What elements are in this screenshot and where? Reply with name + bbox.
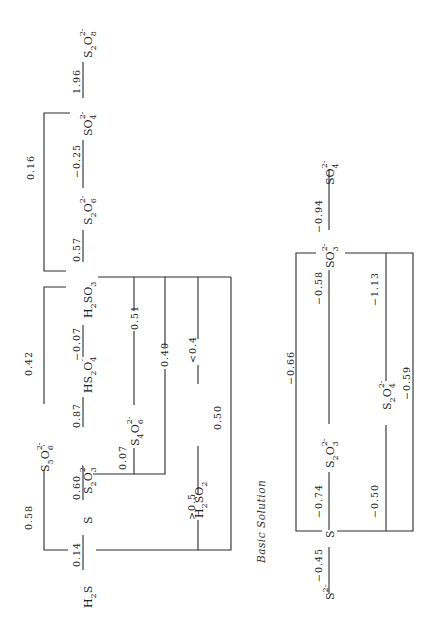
potential-h2so3-so4: 0.16 bbox=[25, 155, 36, 180]
potential-s2o3-so3-basic: −0.58 bbox=[313, 271, 324, 305]
bracket-h2s-h2so2 bbox=[96, 520, 198, 550]
potential-h2s-h2so3: 0.50 bbox=[212, 405, 223, 430]
latimer-diagram: H2S S S2O32- HS2O4- H2SO3 S2O62- SO42- S… bbox=[0, 0, 434, 639]
species-s: S bbox=[82, 516, 95, 524]
potential-so3-so4-basic: −0.94 bbox=[313, 199, 324, 233]
potential-so4-s2o8: 1.96 bbox=[71, 69, 82, 94]
potential-s-so3-via-basic: −0.59 bbox=[401, 366, 412, 400]
potential-s2-s-basic: −0.45 bbox=[313, 548, 324, 582]
bracket-s5o6-h2so3 bbox=[44, 287, 66, 404]
acid-lower-brackets bbox=[93, 277, 231, 550]
species-h2so3: H2SO3 bbox=[82, 282, 98, 318]
species-s2o6: S2O62- bbox=[78, 195, 98, 225]
potential-s-so3-basic: −0.66 bbox=[285, 351, 296, 385]
potential-h2s-s5o6: 0.58 bbox=[23, 505, 34, 530]
potential-s-s2o3: 0.60 bbox=[71, 475, 82, 500]
potential-s2o4-so3-basic: −1.13 bbox=[369, 272, 380, 306]
potential-h2so2-h2so3: <0.4 bbox=[187, 336, 198, 363]
potential-s4o6-h2so3: 0.51 bbox=[129, 305, 140, 330]
species-so4-basic: SO42- bbox=[320, 160, 340, 185]
potential-s5o6-h2so3: 0.42 bbox=[23, 351, 34, 376]
potential-h2so3-s2o6: 0.57 bbox=[71, 237, 82, 262]
potential-s2o3-s4o6: 0.07 bbox=[117, 445, 128, 470]
species-s2o4-basic: S2O42- bbox=[377, 380, 397, 410]
potential-hs2o4-h2so3: −0.07 bbox=[71, 327, 82, 361]
bracket-h2so3-so4 bbox=[44, 113, 70, 271]
species-hs2o4: HS2O4- bbox=[78, 357, 98, 393]
potential-s2o6-so4: −0.25 bbox=[71, 144, 82, 178]
potential-s2o3-hs2o4: 0.87 bbox=[71, 403, 82, 428]
species-s5o6: S5O62- bbox=[35, 442, 55, 472]
potential-h2s-s: 0.14 bbox=[71, 542, 82, 567]
potential-s2o3-h2so3: 0.40 bbox=[159, 342, 170, 367]
species-h2s: H2S bbox=[82, 586, 98, 608]
acid-species: H2S S S2O32- HS2O4- H2SO3 S2O62- SO42- S… bbox=[35, 28, 209, 608]
species-s2o8: S2O82- bbox=[78, 28, 98, 58]
bracket-h2s-s5o6 bbox=[44, 470, 68, 550]
species-so4: SO42- bbox=[78, 111, 98, 136]
species-s2-basic: S2- bbox=[321, 584, 337, 600]
potential-s-s2o3-basic: −0.74 bbox=[313, 484, 324, 518]
caption-basic-solution: Basic Solution bbox=[255, 480, 267, 564]
potential-s-s2o4-basic: −0.50 bbox=[369, 484, 380, 518]
species-so3-basic: SO32- bbox=[320, 243, 340, 268]
species-s-basic: S bbox=[324, 530, 337, 538]
species-s4o6: S4O62- bbox=[125, 416, 145, 446]
species-s2o3-basic: S2O32- bbox=[320, 438, 340, 468]
acid-upper-brackets bbox=[44, 113, 70, 550]
potential-h2s-h2so2: >0.5 bbox=[186, 493, 197, 520]
